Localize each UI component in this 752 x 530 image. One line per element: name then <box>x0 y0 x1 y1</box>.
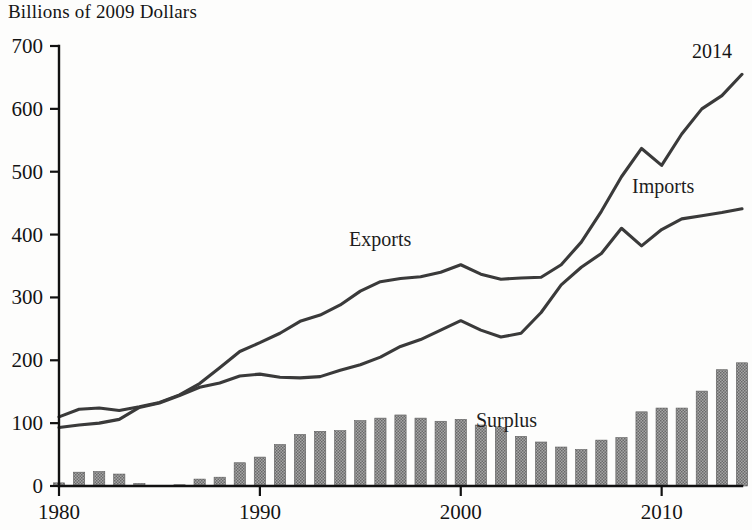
x-tick-label: 2010 <box>641 500 683 524</box>
y-tick-label: 300 <box>12 285 44 309</box>
x-tick-label: 1980 <box>38 500 80 524</box>
y-tick-label: 600 <box>12 97 44 121</box>
surplus-bar <box>254 457 265 486</box>
x-axis-ticks: 1980199020002010 <box>38 486 683 524</box>
surplus-bar <box>696 391 707 486</box>
surplus-bar <box>716 370 727 486</box>
surplus-bar <box>375 418 386 486</box>
series-label-exports: Exports <box>349 228 411 251</box>
surplus-bar <box>395 415 406 486</box>
surplus-bar <box>73 472 84 486</box>
surplus-bar <box>94 472 105 486</box>
y-tick-label: 0 <box>33 474 44 498</box>
surplus-bar <box>435 421 446 486</box>
surplus-bar <box>214 477 225 486</box>
surplus-bar <box>234 463 245 486</box>
surplus-bar <box>636 412 647 486</box>
series-label-imports: Imports <box>632 175 694 198</box>
end-year-annotation: 2014 <box>692 40 732 62</box>
series-label-surplus: Surplus <box>476 409 537 432</box>
surplus-bars-group <box>53 363 747 486</box>
chart-container: Billions of 2009 Dollars 010020030040050… <box>0 0 752 530</box>
surplus-bar <box>656 408 667 486</box>
surplus-bar <box>415 418 426 486</box>
surplus-bar <box>315 431 326 486</box>
chart-plot-area: 0100200300400500600700 1980199020002010 … <box>0 0 752 530</box>
surplus-bar <box>475 425 486 486</box>
surplus-bar <box>616 438 627 486</box>
surplus-bar <box>596 440 607 486</box>
surplus-bar <box>515 436 526 486</box>
y-tick-label: 400 <box>12 223 44 247</box>
surplus-bar <box>335 431 346 486</box>
surplus-bar <box>736 363 747 486</box>
y-tick-label: 500 <box>12 160 44 184</box>
x-tick-label: 2000 <box>440 500 482 524</box>
surplus-bar <box>676 408 687 486</box>
surplus-bar <box>274 445 285 486</box>
surplus-bar <box>114 474 125 486</box>
x-tick-label: 1990 <box>239 500 281 524</box>
y-axis-ticks: 0100200300400500600700 <box>12 34 60 498</box>
y-tick-label: 700 <box>12 34 44 58</box>
surplus-bar <box>535 442 546 486</box>
surplus-bar <box>455 419 466 486</box>
y-tick-label: 100 <box>12 411 44 435</box>
surplus-bar <box>556 447 567 486</box>
surplus-bar <box>495 428 506 486</box>
surplus-bar <box>576 450 587 486</box>
surplus-bar <box>355 421 366 486</box>
series-lines-group <box>59 74 742 427</box>
y-tick-label: 200 <box>12 348 44 372</box>
surplus-bar <box>294 434 305 486</box>
